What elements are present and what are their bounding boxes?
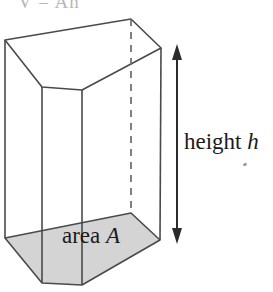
right-back-vertical-edge — [160, 48, 161, 240]
height-dimension-arrow — [172, 44, 182, 244]
height-label-word: height — [184, 129, 242, 154]
height-arrow-head-up — [172, 44, 182, 60]
height-label: height h — [184, 130, 259, 153]
height-arrow-head-down — [172, 228, 182, 244]
figure-canvas: V = Ah height h area A — [0, 0, 273, 292]
height-variable: h — [247, 129, 259, 154]
area-label-word: area — [62, 223, 100, 248]
area-label: area A — [62, 224, 120, 247]
area-variable: A — [106, 223, 120, 248]
